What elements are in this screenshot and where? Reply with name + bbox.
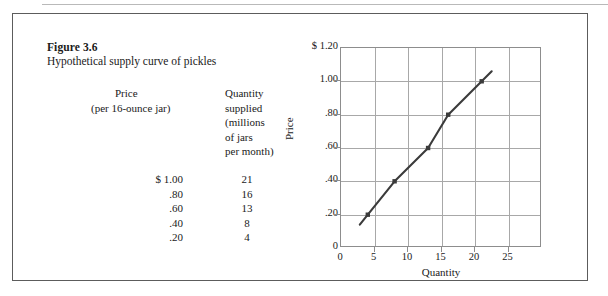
table-row: $ 1.00 21 [73,172,303,187]
x-axis-tick [407,247,408,252]
supply-schedule-table: Price (per 16-ounce jar) Quantity suppli… [73,86,303,245]
x-axis-tick-label: 10 [392,251,422,262]
cell-quantity: 13 [225,201,269,216]
cell-price: .20 [91,230,183,245]
data-point-marker [426,146,430,150]
y-axis-tick-label: 1.00 [278,73,338,84]
y-axis-tick-label: 0 [278,240,338,251]
table-body: $ 1.00 21 .80 16 .60 13 .40 8 .20 4 [73,172,303,245]
column-header-price-line1: Price [91,86,231,101]
page-top-rule [42,4,608,5]
cell-price: .60 [91,201,183,216]
data-point-marker [446,113,450,117]
cell-quantity: 4 [225,230,269,245]
column-header-price-line2: (per 16-ounce jar) [91,101,231,116]
data-point-marker [366,213,370,217]
y-axis-tick-label: .80 [278,107,338,118]
x-axis-title: Quantity [391,266,491,278]
y-axis-title: Price [283,117,295,140]
supply-curve-chart: Price 0.20.40.60.801.00$ 1.20 0510152025… [291,32,591,282]
x-axis-tick [474,247,475,252]
cell-quantity: 16 [225,187,269,202]
cell-price: .80 [91,187,183,202]
table-header: Price (per 16-ounce jar) Quantity suppli… [73,86,303,170]
figure-title: Hypothetical supply curve of pickles [47,54,287,69]
table-row: .60 13 [73,201,303,216]
x-axis-tick [508,247,509,252]
supply-curve-polyline [360,71,492,224]
x-axis-tick-label: 15 [426,251,456,262]
figure-caption: Figure 3.6 Hypothetical supply curve of … [47,40,287,69]
figure-page: Figure 3.6 Hypothetical supply curve of … [0,0,608,296]
x-axis-tick-label: 25 [493,251,523,262]
cell-price: $ 1.00 [91,172,183,187]
figure-number: Figure 3.6 [47,40,287,54]
x-axis-tick-label: 20 [459,251,489,262]
y-axis-tick-label: .60 [278,140,338,151]
cell-quantity: 8 [225,216,269,231]
y-axis-tick-label: .40 [278,173,338,184]
column-header-price: Price (per 16-ounce jar) [91,86,231,115]
figure-box: Figure 3.6 Hypothetical supply curve of … [12,13,588,281]
x-axis-tick [441,247,442,252]
data-point-marker [480,79,484,83]
table-row: .20 4 [73,230,303,245]
x-axis-tick-label: 5 [359,251,389,262]
y-axis-tick-label: $ 1.20 [264,40,338,51]
cell-price: .40 [91,216,183,231]
supply-curve-line [341,48,542,248]
x-axis-tick-label: 0 [325,251,355,262]
cell-quantity: 21 [225,172,269,187]
data-point-marker [392,179,396,183]
plot-area [340,47,541,247]
table-row: .80 16 [73,187,303,202]
table-row: .40 8 [73,216,303,231]
x-axis-tick [374,247,375,252]
y-axis-tick-label: .20 [278,207,338,218]
